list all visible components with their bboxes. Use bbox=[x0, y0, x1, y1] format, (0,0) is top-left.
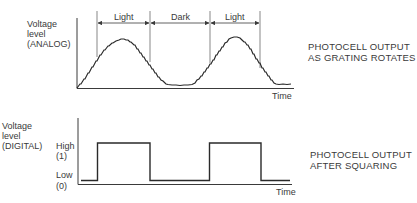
digital-axes bbox=[78, 118, 292, 185]
low-level-value: (0) bbox=[56, 181, 67, 191]
digital-y-label-line2: level bbox=[2, 131, 21, 141]
high-level-label: High bbox=[56, 141, 75, 151]
interval-label-dark: Dark bbox=[171, 12, 190, 22]
analog-y-label-line1: Voltage bbox=[27, 19, 57, 29]
analog-y-label-line3: (ANALOG) bbox=[27, 39, 71, 49]
analog-x-label: Time bbox=[272, 91, 292, 101]
digital-caption-line2: AFTER SQUARING bbox=[310, 160, 397, 171]
analog-axes bbox=[77, 18, 294, 89]
analog-caption-line2: AS GRATING ROTATES bbox=[308, 52, 416, 63]
low-level-label: Low bbox=[56, 170, 73, 180]
analog-y-label-line2: level bbox=[27, 29, 46, 39]
analog-caption-line1: PHOTOCELL OUTPUT bbox=[308, 41, 410, 52]
digital-x-label: Time bbox=[276, 187, 296, 197]
high-level-value: (1) bbox=[56, 151, 67, 161]
interval-label-light-1: Light bbox=[114, 12, 134, 22]
digital-waveform bbox=[81, 143, 290, 181]
digital-y-label-line1: Voltage bbox=[2, 121, 32, 131]
digital-y-label-line3: (DIGITAL) bbox=[2, 141, 42, 151]
analog-waveform bbox=[77, 37, 291, 88]
interval-label-light-2: Light bbox=[225, 12, 245, 22]
digital-caption-line1: PHOTOCELL OUTPUT bbox=[310, 149, 412, 160]
